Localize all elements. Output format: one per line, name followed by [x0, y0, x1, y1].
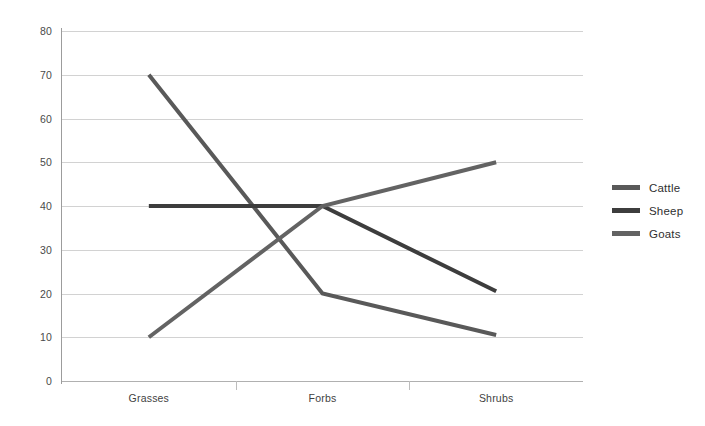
y-tick-label-0: 0 [46, 375, 52, 387]
legend-swatch-icon [612, 231, 640, 236]
y-tick-label-70: 70 [40, 69, 52, 81]
y-tick-label-10: 10 [40, 331, 52, 343]
y-tick-label-60: 60 [40, 113, 52, 125]
y-tick-label-20: 20 [40, 288, 52, 300]
legend-item-cattle[interactable]: Cattle [612, 176, 700, 199]
x-axis: GrassesForbsShrubs [62, 381, 583, 403]
legend-item-goats[interactable]: Goats [612, 222, 700, 245]
legend-swatch-icon [612, 208, 640, 213]
series-line-sheep [149, 206, 496, 291]
legend-label: Cattle [649, 182, 680, 194]
y-tick-label-40: 40 [40, 200, 52, 212]
x-axis-separator [409, 381, 410, 390]
y-tick-label-30: 30 [40, 244, 52, 256]
y-axis-tick-labels: 01020304050607080 [0, 31, 52, 381]
plot-area [62, 31, 583, 381]
x-tick-label-shrubs: Shrubs [479, 392, 513, 404]
line-chart: 01020304050607080 GrassesForbsShrubs Cat… [0, 0, 705, 426]
x-axis-separator [236, 381, 237, 390]
y-tick-label-50: 50 [40, 156, 52, 168]
chart-legend: CattleSheepGoats [612, 176, 700, 245]
legend-item-sheep[interactable]: Sheep [612, 199, 700, 222]
x-tick-label-grasses: Grasses [129, 392, 170, 404]
legend-swatch-icon [612, 185, 640, 190]
legend-label: Goats [649, 228, 681, 240]
series-layer [62, 31, 583, 381]
x-tick-label-forbs: Forbs [309, 392, 337, 404]
y-tick-label-80: 80 [40, 25, 52, 37]
series-line-goats [149, 162, 496, 337]
legend-label: Sheep [649, 205, 683, 217]
